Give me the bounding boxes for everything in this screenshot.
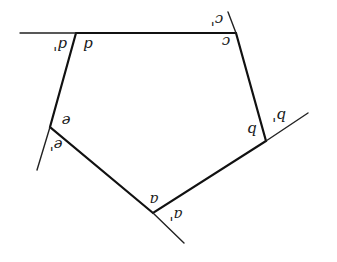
label-b-interior: b [247,121,257,139]
label-a-exterior: a' [169,206,182,224]
label-a-interior: a [150,191,159,209]
label-e-interior: e [61,112,70,130]
pentagon-outline [50,33,266,213]
extension-at-c [228,12,236,33]
label-c-exterior: c' [211,11,224,29]
label-d-exterior: d' [53,36,67,54]
label-e-exterior: e' [49,136,62,154]
pentagon-diagram: d d' c c' b b' a a' e e' [0,0,337,262]
label-d-interior: d [83,36,93,54]
extension-at-e [37,127,50,170]
label-b-exterior: b' [272,107,286,125]
label-c-interior: c [221,33,230,51]
